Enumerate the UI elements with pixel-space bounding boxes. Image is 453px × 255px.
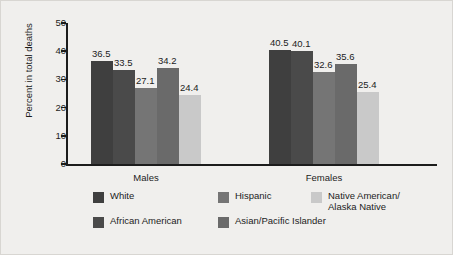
bar [179,95,201,164]
bar-value-label: 36.5 [92,49,111,59]
legend-label: Asian/Pacific Islander [235,216,326,227]
bar [357,92,379,164]
legend-swatch-icon [218,217,229,228]
bar [313,72,335,164]
y-tick-label: 30 [44,74,66,84]
bar [157,68,179,164]
plot-area: Percent in total deaths 50403020100 36.5… [1,1,453,255]
legend-item: Native American/ Alaska Native [311,191,400,212]
legend-label: Native American/ Alaska Native [328,191,400,212]
chart-figure: Percent in total deaths 50403020100 36.5… [0,0,453,255]
bar [269,50,291,164]
legend-swatch-icon [311,192,322,203]
bar-value-label: 35.6 [336,52,355,62]
bar-value-label: 25.4 [358,80,377,90]
y-tick-label: 10 [44,131,66,141]
x-axis-line [66,164,437,166]
bar-value-label: 34.2 [158,56,177,66]
bar [113,70,135,164]
legend-label: White [110,191,134,202]
legend-item: White [93,191,134,203]
y-tick-label: 40 [44,46,66,56]
legend-label: Hispanic [235,191,271,202]
bar-value-label: 40.1 [292,39,311,49]
y-tick-label: 20 [44,103,66,113]
bar-value-label: 33.5 [114,58,133,68]
legend-item: African American [93,216,182,228]
bar-value-label: 24.4 [180,83,199,93]
x-axis-group-label: Males [91,172,201,183]
bar [135,88,157,164]
bar-value-label: 32.6 [314,60,333,70]
y-tick-label-wrap: 40 [1,46,66,56]
x-axis-group-label: Females [269,172,379,183]
bar [291,51,313,164]
legend-label: African American [110,216,182,227]
legend-item: Hispanic [218,191,271,203]
y-tick-label-wrap: 20 [1,103,66,113]
bar-value-label: 40.5 [270,38,289,48]
bar [91,61,113,164]
bar-value-label: 27.1 [136,76,155,86]
legend-swatch-icon [93,192,104,203]
y-axis-line [66,23,68,165]
legend-item: Asian/Pacific Islander [218,216,326,228]
y-tick-label-wrap: 30 [1,74,66,84]
y-tick-label: 50 [44,18,66,28]
y-tick-label: 0 [44,159,66,169]
y-tick-label-wrap: 50 [1,18,66,28]
y-tick-label-wrap: 10 [1,131,66,141]
bar [335,64,357,164]
y-tick-label-wrap: 0 [1,159,66,169]
legend-swatch-icon [218,192,229,203]
legend-swatch-icon [93,217,104,228]
